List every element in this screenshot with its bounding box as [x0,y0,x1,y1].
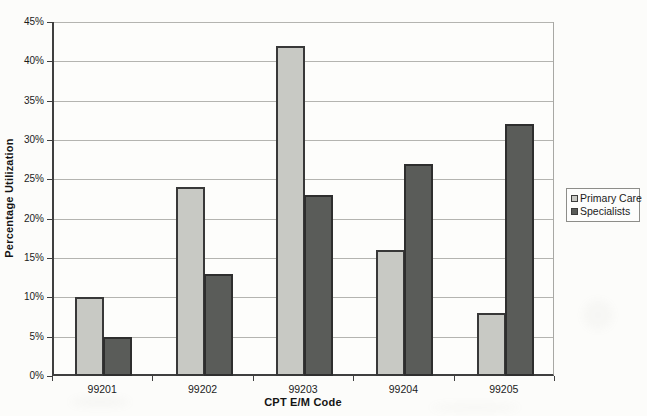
y-tick-mark-25% [47,179,52,180]
y-tick-mark-5% [47,337,52,338]
bar-specialists-99203 [304,195,333,376]
plot-area [52,22,554,376]
scan-smudge [583,300,613,330]
bar-primary-care-99205 [477,313,506,376]
x-tick-mark-4 [454,376,455,381]
legend-label: Specialists [580,205,630,218]
x-tick-mark-3 [353,376,354,381]
y-tick-mark-45% [47,22,52,23]
bar-primary-care-99202 [176,187,205,376]
legend-label: Primary Care [580,192,642,205]
y-tick-label-35%: 35% [0,95,44,107]
x-tick-mark-0 [52,376,53,381]
x-category-label-99203: 99203 [263,383,343,395]
y-tick-mark-30% [47,140,52,141]
y-tick-label-5%: 5% [0,331,44,343]
x-category-label-99204: 99204 [363,383,443,395]
y-tick-mark-40% [47,61,52,62]
y-tick-mark-10% [47,297,52,298]
bar-primary-care-99204 [376,250,405,376]
legend-swatch-primary-care [571,195,578,202]
bar-specialists-99201 [103,337,132,376]
y-tick-mark-15% [47,258,52,259]
y-tick-label-30%: 30% [0,134,44,146]
scanned-bar-chart-page: Percentage Utilization 0%5%10%15%20%25%3… [0,0,647,416]
y-tick-label-10%: 10% [0,291,44,303]
bar-specialists-99204 [404,164,433,376]
y-tick-mark-35% [47,101,52,102]
x-tick-mark-2 [253,376,254,381]
bar-specialists-99202 [204,274,233,376]
legend-item-primary-care: Primary Care [571,192,636,205]
y-tick-label-25%: 25% [0,173,44,185]
legend: Primary CareSpecialists [566,188,640,222]
x-axis-title: CPT E/M Code [52,396,554,408]
bar-primary-care-99203 [276,46,305,376]
x-category-label-99205: 99205 [464,383,544,395]
legend-swatch-specialists [571,208,578,215]
legend-item-specialists: Specialists [571,205,636,218]
bar-primary-care-99201 [75,297,104,376]
y-tick-label-40%: 40% [0,55,44,67]
y-tick-label-45%: 45% [0,16,44,28]
y-tick-label-0%: 0% [0,370,44,382]
bar-specialists-99205 [505,124,534,376]
gridline-45 [54,22,553,23]
y-tick-label-20%: 20% [0,213,44,225]
x-tick-mark-1 [152,376,153,381]
y-tick-mark-20% [47,219,52,220]
x-category-label-99202: 99202 [163,383,243,395]
x-tick-mark-5 [554,376,555,381]
x-category-label-99201: 99201 [62,383,142,395]
y-tick-label-15%: 15% [0,252,44,264]
